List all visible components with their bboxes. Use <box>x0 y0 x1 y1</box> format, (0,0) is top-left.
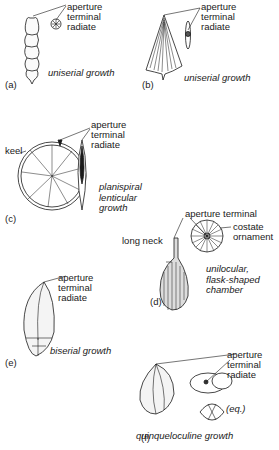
view-label-eq: (eq.) <box>226 404 246 415</box>
callout-a: aperture terminal radiate <box>67 2 102 32</box>
panel-label-c: (c) <box>5 214 16 224</box>
callout-f: aperture terminal radiate <box>227 350 262 380</box>
caption-d: unilocular, flask-shaped chamber <box>206 264 260 296</box>
panel-label-d: (d) <box>150 297 162 307</box>
planispiral-test-c <box>18 128 90 210</box>
panel-label-b: (b) <box>142 80 154 90</box>
caption-b: uniserial growth <box>184 73 251 84</box>
panel-label-e: (e) <box>5 358 17 368</box>
callout-d: aperture terminal <box>185 209 257 219</box>
caption-e: biserial growth <box>50 346 111 357</box>
panel-label-a: (a) <box>5 80 17 90</box>
caption-c: planispiral lenticular growth <box>99 182 142 214</box>
callout-e: aperture terminal radiate <box>58 273 93 303</box>
callout-b: aperture terminal radiate <box>201 2 236 32</box>
long-neck-label: long neck <box>122 236 163 246</box>
caption-a: uniserial growth <box>48 68 115 79</box>
quinqueloculine-test-f <box>140 354 236 420</box>
uniserial-test-b <box>146 8 200 80</box>
caption-f: quinqueloculine growth <box>136 431 233 442</box>
ornament-label: costate ornament <box>233 222 273 242</box>
keel-label: keel <box>5 146 22 156</box>
callout-c: aperture terminal radiate <box>91 120 126 150</box>
